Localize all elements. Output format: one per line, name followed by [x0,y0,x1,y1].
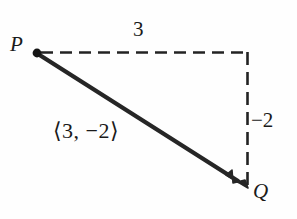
point-p-dot [33,49,42,58]
point-label-p: P [10,34,23,55]
vector-components-label: ⟨3, −2⟩ [53,120,119,142]
horizontal-length-label: 3 [133,19,144,40]
vertical-length-label: −2 [251,110,273,131]
vector-diagram: P Q 3 −2 ⟨3, −2⟩ [0,0,297,219]
point-label-q: Q [253,181,268,202]
